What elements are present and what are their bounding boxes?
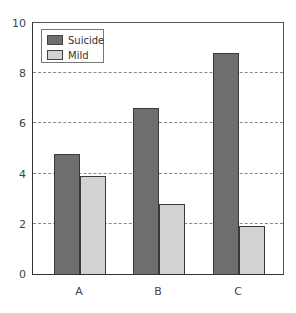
bar-suicide-a xyxy=(54,154,80,274)
x-tick-label: C xyxy=(234,285,242,298)
x-tick-label: A xyxy=(75,285,83,298)
bar-mild-c xyxy=(239,226,265,274)
legend-swatch-mild xyxy=(47,50,63,60)
bar-mild-b xyxy=(159,204,185,274)
legend-label-mild: Mild xyxy=(68,50,89,61)
legend-label-suicide: Suicide xyxy=(68,35,104,46)
bar-mild-a xyxy=(80,176,106,274)
legend-swatch-suicide xyxy=(47,35,63,45)
y-tick-label: 4 xyxy=(0,167,26,180)
y-tick-label: 6 xyxy=(0,117,26,130)
y-tick-label: 8 xyxy=(0,67,26,80)
legend-item-mild: Mild xyxy=(47,49,89,61)
gridline xyxy=(33,72,283,73)
x-tick-label: B xyxy=(154,285,162,298)
bar-suicide-b xyxy=(133,108,159,274)
y-tick-label: 0 xyxy=(0,268,26,281)
bar-suicide-c xyxy=(213,53,239,274)
y-tick-label: 10 xyxy=(0,17,26,30)
y-tick-label: 2 xyxy=(0,217,26,230)
legend-item-suicide: Suicide xyxy=(47,34,104,46)
legend: Suicide Mild xyxy=(41,29,104,63)
